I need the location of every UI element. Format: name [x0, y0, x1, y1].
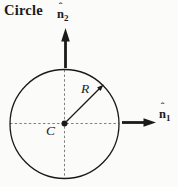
- n2-subscript: 2: [64, 13, 69, 23]
- circle-diagram: Circle R C ˆn2 ˆn1: [0, 0, 178, 187]
- n1-axis-arrowhead-icon: [144, 118, 157, 127]
- center-label: C: [46, 124, 55, 138]
- n2-label: ˆn2: [57, 8, 68, 23]
- n2-hat-accent: ˆ: [59, 1, 63, 12]
- n2-base-stack: ˆn: [57, 8, 64, 21]
- diagram-title: Circle: [4, 3, 43, 18]
- center-point: [62, 121, 68, 127]
- radius-label: R: [81, 82, 89, 96]
- n1-hat-accent: ˆ: [161, 101, 165, 112]
- n1-subscript: 1: [166, 113, 171, 123]
- n1-base-stack: ˆn: [159, 108, 166, 121]
- n2-axis-arrowhead-icon: [61, 28, 70, 42]
- n1-label: ˆn1: [159, 108, 170, 123]
